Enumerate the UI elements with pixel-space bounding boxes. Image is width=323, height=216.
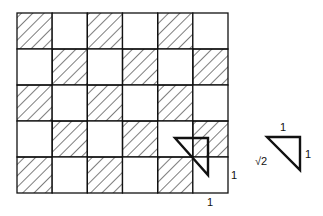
blank-cell	[87, 121, 122, 157]
blank-cell	[17, 121, 52, 157]
hatched-cell	[158, 85, 193, 121]
hatched-cell	[52, 121, 87, 157]
blank-cell	[158, 49, 193, 85]
triangle-top-label: 1	[280, 121, 286, 133]
hatched-cell	[17, 157, 52, 193]
grid-side-label: 1	[231, 169, 237, 181]
triangle-hypotenuse-label: √2	[255, 155, 267, 167]
hatched-cell	[158, 13, 193, 49]
hatched-cell	[17, 13, 52, 49]
hatched-cell	[87, 13, 122, 49]
blank-cell	[87, 49, 122, 85]
grid-bottom-label: 1	[207, 196, 213, 208]
blank-cell	[52, 85, 87, 121]
blank-cell	[123, 85, 158, 121]
hatched-cell	[158, 157, 193, 193]
hatched-cell	[123, 49, 158, 85]
hatched-cell	[87, 85, 122, 121]
diagram-canvas: 1 1 1 1 √2	[0, 0, 323, 216]
blank-cell	[123, 13, 158, 49]
hatched-cell	[123, 121, 158, 157]
blank-cell	[123, 157, 158, 193]
triangle-right-label: 1	[305, 148, 311, 160]
checkerboard-grid	[17, 13, 228, 193]
hatched-cell	[52, 49, 87, 85]
blank-cell	[17, 49, 52, 85]
blank-cell	[52, 157, 87, 193]
hatched-cell	[87, 157, 122, 193]
hatched-cell	[193, 49, 228, 85]
blank-cell	[193, 13, 228, 49]
hatched-cell	[17, 85, 52, 121]
blank-cell	[193, 85, 228, 121]
blank-cell	[52, 13, 87, 49]
reference-triangle	[267, 137, 300, 170]
